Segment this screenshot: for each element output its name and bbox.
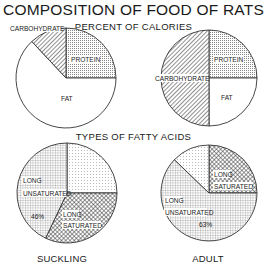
label-protein: PROTEIN <box>71 56 101 63</box>
caption-adult: ADULT <box>168 253 248 264</box>
label-long: LONG <box>165 197 184 204</box>
label-carbohydrate: CARBOHYDRATE <box>10 25 65 32</box>
label-long: LONG <box>214 171 233 178</box>
pie-charts: CARBOHYDRATE PROTEIN FAT PROTEIN CARBOHY… <box>0 0 267 268</box>
slice-protein <box>66 28 116 78</box>
label-saturated: SATURATED <box>63 222 102 229</box>
label-long: LONG <box>63 211 82 218</box>
label-fat: FAT <box>61 95 73 102</box>
label-protein: PROTEIN <box>214 56 244 63</box>
label-unsaturated: UNSATURATED <box>23 190 72 197</box>
label-unsaturated: UNSATURATED <box>165 209 214 216</box>
label-46-percent: 46% <box>31 213 44 220</box>
slice-protein <box>209 30 257 78</box>
label-63-percent: 63% <box>199 221 212 228</box>
label-saturated: SATURATED <box>214 183 253 190</box>
slice-fat <box>209 78 257 126</box>
label-carbohydrate: CARBOHYDRATE <box>155 75 210 82</box>
slice-other <box>67 143 117 193</box>
label-long: LONG <box>23 177 42 184</box>
caption-suckling: SUCKLING <box>22 253 102 264</box>
pie-suckling-calories <box>16 28 116 128</box>
label-fat: FAT <box>221 94 233 101</box>
